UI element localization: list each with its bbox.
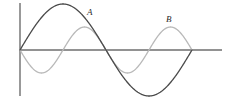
curve-a-label: A — [87, 8, 93, 17]
curve-b-label: B — [166, 15, 172, 24]
wave-plot-svg — [0, 0, 228, 99]
wave-diagram: A B — [0, 0, 228, 99]
